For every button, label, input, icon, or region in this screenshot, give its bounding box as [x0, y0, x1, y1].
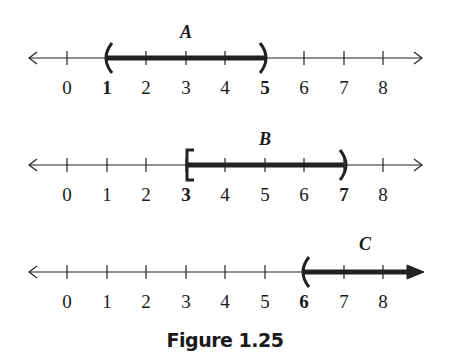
number-line-c: C 0 1 2 3 4 5 6 7 8	[29, 234, 424, 312]
svg-text:8: 8	[378, 184, 388, 205]
svg-text:2: 2	[141, 291, 151, 312]
svg-text:6: 6	[299, 77, 309, 98]
svg-text:0: 0	[62, 77, 72, 98]
tick-labels: 0 1 2 3 4 5 6 7 8	[62, 77, 388, 98]
svg-text:0: 0	[62, 184, 72, 205]
svg-text:6: 6	[299, 291, 309, 312]
svg-text:2: 2	[141, 77, 151, 98]
number-line-b: B 0 1 2 3 4 5 6 7 8	[29, 129, 422, 205]
tick-labels: 0 1 2 3 4 5 6 7 8	[62, 291, 388, 312]
svg-text:4: 4	[220, 184, 230, 205]
svg-text:4: 4	[220, 77, 230, 98]
figure-caption: Figure 1.25	[167, 329, 284, 351]
svg-text:3: 3	[181, 184, 191, 205]
svg-text:0: 0	[62, 291, 72, 312]
svg-text:4: 4	[220, 291, 230, 312]
svg-text:1: 1	[102, 291, 112, 312]
svg-text:8: 8	[378, 291, 388, 312]
interval-label: B	[258, 129, 271, 149]
number-line-a: A 0 1 2 3 4 5 6 7 8	[29, 22, 422, 98]
svg-text:6: 6	[299, 184, 309, 205]
interval-label: C	[359, 234, 372, 254]
svg-text:5: 5	[260, 184, 270, 205]
svg-text:5: 5	[260, 291, 270, 312]
svg-text:1: 1	[102, 77, 112, 98]
interval-label: A	[179, 22, 192, 42]
svg-text:3: 3	[181, 77, 191, 98]
infinity-arrow-icon	[407, 265, 424, 279]
figure-canvas: A 0 1 2 3 4 5 6 7 8 B 0 1	[0, 0, 453, 354]
svg-text:7: 7	[339, 291, 349, 312]
svg-text:1: 1	[102, 184, 112, 205]
svg-text:8: 8	[378, 77, 388, 98]
svg-text:7: 7	[339, 77, 349, 98]
svg-text:7: 7	[339, 184, 349, 205]
svg-text:5: 5	[260, 77, 270, 98]
svg-text:2: 2	[141, 184, 151, 205]
tick-labels: 0 1 2 3 4 5 6 7 8	[62, 184, 388, 205]
svg-text:3: 3	[181, 291, 191, 312]
